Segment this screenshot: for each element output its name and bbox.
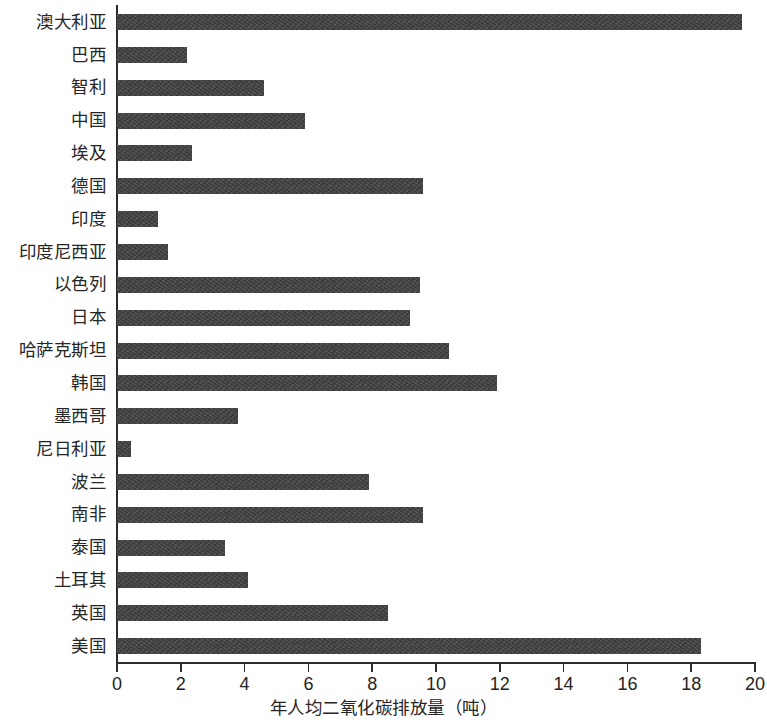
bar — [117, 375, 497, 391]
bar — [117, 14, 742, 30]
bar-row — [117, 203, 755, 236]
category-label: 波兰 — [0, 466, 110, 499]
x-tick-mark — [627, 663, 629, 672]
category-label: 泰国 — [0, 532, 110, 565]
bar-row — [117, 105, 755, 138]
x-tick-mark — [499, 663, 501, 672]
x-tick-label: 16 — [607, 675, 647, 693]
category-label: 墨西哥 — [0, 400, 110, 433]
category-label: 日本 — [0, 302, 110, 335]
bar — [117, 80, 264, 96]
category-label-text: 印度尼西亚 — [19, 244, 107, 262]
bar-row — [117, 170, 755, 203]
category-label-text: 泰国 — [71, 539, 106, 557]
category-label-text: 美国 — [71, 638, 106, 656]
bar-row — [117, 433, 755, 466]
x-tick-mark — [308, 663, 310, 672]
category-label: 英国 — [0, 597, 110, 630]
category-label: 巴西 — [0, 39, 110, 72]
category-label-text: 哈萨克斯坦 — [19, 342, 107, 360]
bar — [117, 145, 192, 161]
bar-row — [117, 630, 755, 663]
bar-row — [117, 335, 755, 368]
bar-row — [117, 137, 755, 170]
bar-row — [117, 532, 755, 565]
bar-row — [117, 367, 755, 400]
bar — [117, 178, 423, 194]
x-tick-label: 2 — [161, 675, 201, 693]
bar-row — [117, 6, 755, 39]
bar-row — [117, 400, 755, 433]
category-label-text: 德国 — [71, 178, 106, 196]
x-tick-mark — [244, 663, 246, 672]
x-tick-label: 8 — [352, 675, 392, 693]
bar — [117, 638, 701, 654]
bar — [117, 474, 369, 490]
bar — [117, 572, 248, 588]
x-tick-label: 20 — [735, 675, 767, 693]
bar-row — [117, 236, 755, 269]
category-label-text: 南非 — [71, 506, 106, 524]
x-tick-label: 12 — [480, 675, 520, 693]
category-label: 美国 — [0, 630, 110, 663]
bar — [117, 507, 423, 523]
category-label-text: 日本 — [71, 309, 106, 327]
category-label: 澳大利亚 — [0, 6, 110, 39]
category-label-text: 智利 — [71, 79, 106, 97]
category-label-text: 印度 — [71, 211, 106, 229]
bar-row — [117, 269, 755, 302]
bar — [117, 244, 168, 260]
x-tick-label: 10 — [416, 675, 456, 693]
x-axis-title: 年人均二氧化碳排放量（吨） — [0, 700, 767, 718]
bar-row — [117, 564, 755, 597]
category-label-text: 英国 — [71, 605, 106, 623]
x-tick-mark — [563, 663, 565, 672]
category-label-text: 尼日利亚 — [36, 441, 106, 459]
category-label: 哈萨克斯坦 — [0, 335, 110, 368]
category-label: 印度 — [0, 203, 110, 236]
x-tick-label: 0 — [97, 675, 137, 693]
bar-row — [117, 39, 755, 72]
x-tick-mark — [116, 663, 118, 672]
category-label-text: 波兰 — [71, 474, 106, 492]
x-tick-label: 14 — [544, 675, 584, 693]
x-tick-label: 18 — [671, 675, 711, 693]
bar — [117, 343, 449, 359]
bar — [117, 47, 187, 63]
category-label-text: 中国 — [71, 112, 106, 130]
bar-row — [117, 597, 755, 630]
category-label-text: 巴西 — [71, 47, 106, 65]
x-tick-mark — [180, 663, 182, 672]
bar-chart: 澳大利亚巴西智利中国埃及德国印度印度尼西亚以色列日本哈萨克斯坦韩国墨西哥尼日利亚… — [0, 0, 767, 728]
category-label-text: 墨西哥 — [54, 408, 107, 426]
category-label: 中国 — [0, 105, 110, 138]
bar — [117, 540, 225, 556]
x-tick-mark — [690, 663, 692, 672]
x-tick-label: 4 — [225, 675, 265, 693]
category-label: 印度尼西亚 — [0, 236, 110, 269]
category-label-text: 土耳其 — [54, 572, 107, 590]
bar — [117, 113, 305, 129]
x-tick-label: 6 — [288, 675, 328, 693]
category-label: 土耳其 — [0, 564, 110, 597]
category-label: 以色列 — [0, 269, 110, 302]
bar — [117, 277, 420, 293]
bar — [117, 211, 158, 227]
bar-row — [117, 499, 755, 532]
bar — [117, 310, 410, 326]
category-label: 韩国 — [0, 367, 110, 400]
category-label: 南非 — [0, 499, 110, 532]
category-label: 德国 — [0, 170, 110, 203]
bar — [117, 605, 388, 621]
x-tick-mark — [371, 663, 373, 672]
category-label: 埃及 — [0, 137, 110, 170]
category-label: 尼日利亚 — [0, 433, 110, 466]
bar-row — [117, 466, 755, 499]
bar — [117, 408, 238, 424]
category-label-text: 澳大利亚 — [36, 14, 106, 32]
category-label: 智利 — [0, 72, 110, 105]
category-label-text: 埃及 — [71, 145, 106, 163]
bar-row — [117, 302, 755, 335]
x-tick-mark — [754, 663, 756, 672]
bar — [117, 441, 131, 457]
